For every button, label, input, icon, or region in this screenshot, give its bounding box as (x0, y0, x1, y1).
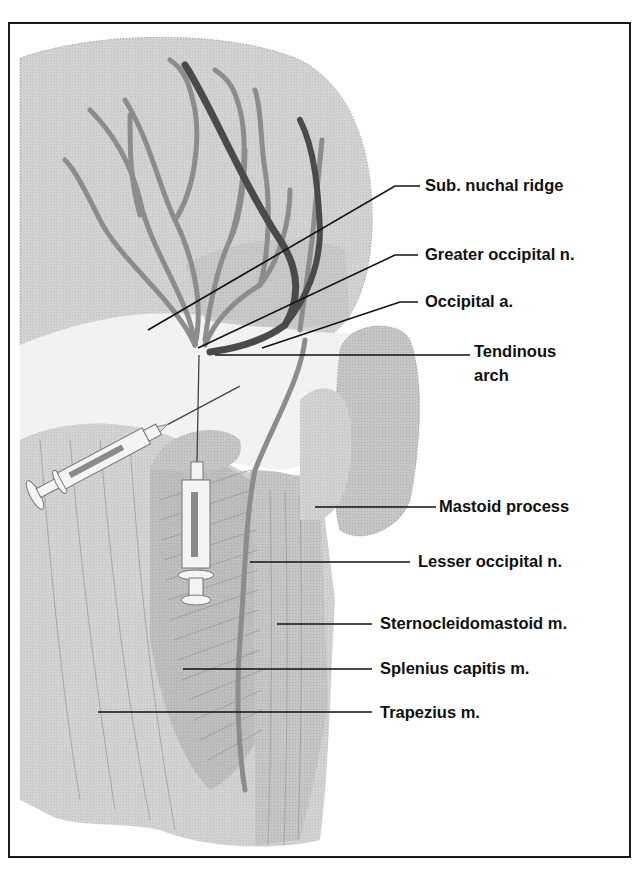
label-lesser-occipital-n: Lesser occipital n. (418, 552, 562, 571)
label-tendinous-arch-line1: Tendinous (474, 342, 556, 361)
label-greater-occipital-n: Greater occipital n. (425, 245, 574, 264)
label-tendinous-arch-line2: arch (474, 366, 509, 385)
label-occipital-a: Occipital a. (425, 292, 513, 311)
label-mastoid-process: Mastoid process (439, 497, 569, 516)
label-sub-nuchal-ridge: Sub. nuchal ridge (425, 176, 563, 195)
anatomy-illustration (0, 0, 641, 878)
label-splenius-capitis-m: Splenius capitis m. (380, 659, 529, 678)
label-sternocleidomastoid-m: Sternocleidomastoid m. (380, 614, 567, 633)
label-trapezius-m: Trapezius m. (380, 703, 480, 722)
